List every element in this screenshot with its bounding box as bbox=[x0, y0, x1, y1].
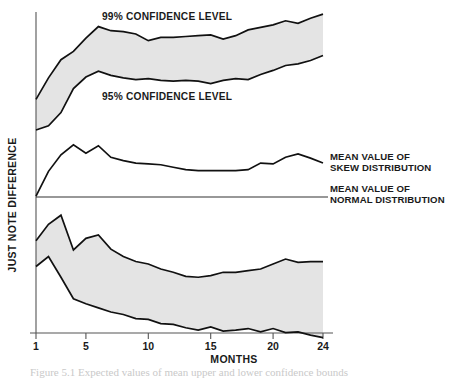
callout-normal-mean-line1: MEAN VALUE OF bbox=[330, 183, 410, 194]
band-fills bbox=[36, 14, 323, 337]
x-tick-label-1: 1 bbox=[33, 340, 39, 352]
upper-confidence-band-area bbox=[36, 14, 323, 130]
skew-distribution-mean-line bbox=[36, 145, 323, 196]
x-tick-label-10: 10 bbox=[142, 340, 154, 352]
x-tick-label-5: 5 bbox=[83, 340, 89, 352]
figure-caption: Figure 5.1 Expected values of mean upper… bbox=[30, 366, 450, 379]
x-axis-tick-marks bbox=[36, 333, 323, 339]
x-tick-label-24: 24 bbox=[317, 340, 329, 352]
x-axis-tick-labels: 1510152024 bbox=[33, 340, 329, 352]
y-axis-title: JUST NOTE DIFFERENCE bbox=[6, 138, 18, 273]
x-tick-label-20: 20 bbox=[267, 340, 279, 352]
callout-skew-mean-line2: SKEW DISTRIBUTION bbox=[330, 162, 431, 173]
x-tick-label-15: 15 bbox=[205, 340, 217, 352]
callout-skew-mean-line1: MEAN VALUE OF bbox=[330, 151, 410, 162]
label-99-confidence-level: 99% CONFIDENCE LEVEL bbox=[102, 11, 232, 22]
callout-normal-mean-line2: NORMAL DISTRIBUTION bbox=[330, 194, 445, 205]
x-axis-title: MONTHS bbox=[210, 353, 257, 365]
lower-confidence-band-area bbox=[36, 215, 323, 337]
label-95-confidence-level: 95% CONFIDENCE LEVEL bbox=[102, 91, 232, 102]
